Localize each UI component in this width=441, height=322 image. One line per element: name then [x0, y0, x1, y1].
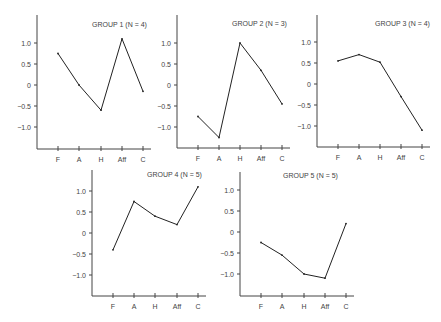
x-tick-label: H: [237, 155, 242, 162]
x-tick-label: F: [336, 154, 340, 161]
chart-title: GROUP 1 (N = 4): [92, 21, 147, 29]
chart-group-1: GROUP 1 (N = 4)1.00.50−0.5−1.0FAHAffC: [17, 15, 151, 163]
y-tick-label: −1.0: [72, 272, 86, 279]
x-tick-label: A: [357, 154, 362, 161]
data-line: [58, 39, 143, 110]
data-point: [260, 69, 262, 71]
data-line: [198, 43, 282, 138]
y-tick-label: 0: [307, 81, 311, 88]
y-tick-label: 0.5: [76, 209, 86, 216]
data-point: [281, 103, 283, 105]
data-point: [421, 129, 423, 131]
chart-grid: GROUP 1 (N = 4)1.00.50−0.5−1.0FAHAffCGRO…: [0, 0, 441, 322]
x-tick-label: H: [152, 303, 157, 310]
y-tick-label: 1.0: [161, 40, 171, 47]
data-point: [345, 223, 347, 225]
y-tick-label: −1.0: [297, 123, 311, 130]
y-tick-label: 1.0: [21, 40, 31, 47]
chart-title: GROUP 2 (N = 3): [232, 20, 287, 28]
y-tick-label: −0.5: [157, 103, 171, 110]
chart-group-5: GROUP 5 (N = 5)1.00.50−0.5−1.0FAHAffC: [220, 172, 354, 310]
data-point: [239, 42, 241, 44]
data-point: [260, 242, 262, 244]
x-tick-label: Aff: [257, 155, 265, 162]
data-point: [324, 277, 326, 279]
y-tick-label: 0.5: [161, 61, 171, 68]
x-tick-label: A: [77, 156, 82, 163]
x-tick-label: H: [377, 154, 382, 161]
data-point: [57, 53, 59, 55]
x-tick-label: C: [195, 303, 200, 310]
data-point: [337, 60, 339, 62]
y-tick-label: −1.0: [220, 271, 234, 278]
data-line: [338, 55, 422, 131]
data-point: [197, 116, 199, 118]
x-tick-label: Aff: [173, 303, 181, 310]
x-tick-label: A: [217, 155, 222, 162]
y-tick-label: −1.0: [157, 124, 171, 131]
y-tick-label: 1.0: [76, 188, 86, 195]
data-line: [261, 224, 346, 279]
data-point: [121, 38, 123, 40]
x-tick-label: Aff: [118, 156, 126, 163]
data-point: [281, 254, 283, 256]
x-tick-label: C: [140, 156, 145, 163]
y-tick-label: 0.5: [21, 61, 31, 68]
x-tick-label: C: [343, 303, 348, 310]
chart-group-2: GROUP 2 (N = 3)1.00.50−0.5−1.0FAHAffC: [157, 15, 290, 162]
y-tick-label: 0: [82, 230, 86, 237]
chart-group-3: GROUP 3 (N = 4)1.00.50−0.5−1.0FAHAffC: [297, 15, 430, 161]
data-point: [379, 61, 381, 63]
x-tick-label: H: [98, 156, 103, 163]
x-tick-label: F: [56, 156, 60, 163]
x-tick-label: Aff: [321, 303, 329, 310]
x-tick-label: Aff: [397, 154, 405, 161]
data-point: [218, 137, 220, 139]
data-point: [142, 90, 144, 92]
chart-title: GROUP 5 (N = 5): [283, 172, 338, 180]
y-tick-label: −0.5: [297, 102, 311, 109]
y-tick-label: 1.0: [224, 187, 234, 194]
data-point: [154, 215, 156, 217]
data-point: [197, 186, 199, 188]
chart-group-4: GROUP 4 (N = 5)1.00.50−0.5−1.0FAHAffC: [72, 170, 206, 310]
x-tick-label: F: [259, 303, 263, 310]
y-tick-label: 0.5: [301, 60, 311, 67]
data-point: [133, 201, 135, 203]
y-tick-label: 0: [230, 229, 234, 236]
y-tick-label: 1.0: [301, 39, 311, 46]
y-tick-label: −1.0: [17, 124, 31, 131]
data-point: [78, 84, 80, 86]
y-tick-label: 0: [167, 82, 171, 89]
y-tick-label: 0: [27, 82, 31, 89]
data-point: [303, 273, 305, 275]
data-point: [112, 249, 114, 251]
x-tick-label: F: [196, 155, 200, 162]
y-tick-label: −0.5: [220, 250, 234, 257]
x-tick-label: A: [132, 303, 137, 310]
data-point: [176, 224, 178, 226]
x-tick-label: C: [279, 155, 284, 162]
data-point: [400, 96, 402, 98]
x-tick-label: H: [301, 303, 306, 310]
data-line: [113, 187, 198, 250]
chart-title: GROUP 4 (N = 5): [147, 171, 202, 179]
y-tick-label: −0.5: [17, 103, 31, 110]
chart-title: GROUP 3 (N = 4): [375, 20, 430, 28]
data-point: [358, 54, 360, 56]
x-tick-label: A: [280, 303, 285, 310]
y-tick-label: 0.5: [224, 208, 234, 215]
data-point: [100, 109, 102, 111]
y-tick-label: −0.5: [72, 251, 86, 258]
x-tick-label: F: [111, 303, 115, 310]
x-tick-label: C: [419, 154, 424, 161]
